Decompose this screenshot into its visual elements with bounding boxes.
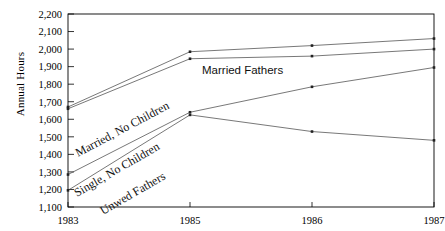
data-point-marker: [189, 111, 192, 114]
data-point-marker: [311, 86, 314, 89]
data-point-marker: [433, 66, 436, 69]
plot-area-frame: [68, 14, 434, 207]
data-point-marker: [189, 50, 192, 53]
y-tick-label: 1,500: [38, 132, 62, 143]
data-point-marker: [67, 189, 70, 192]
y-tick-label: 2,100: [38, 26, 62, 37]
data-point-marker: [311, 44, 314, 47]
y-tick-label: 1,300: [38, 167, 62, 178]
data-point-marker: [189, 114, 192, 117]
y-tick-label: 2,000: [38, 44, 62, 55]
data-point-marker: [433, 48, 436, 51]
data-point-marker: [67, 173, 70, 176]
y-axis-ticks: 2,2002,1002,0001,9001,8001,7001,6001,500…: [38, 9, 74, 213]
y-tick-label: 1,400: [38, 149, 62, 160]
y-tick-label: 1,900: [38, 61, 62, 72]
data-point-marker: [311, 55, 314, 58]
x-tick-label: 1983: [58, 215, 79, 226]
line-chart-svg: 2,2002,1002,0001,9001,8001,7001,6001,500…: [0, 0, 445, 231]
chart-figure: Annual Hours 2,2002,1002,0001,9001,8001,…: [0, 0, 445, 231]
x-tick-label: 1986: [302, 215, 323, 226]
y-tick-label: 1,200: [38, 184, 62, 195]
y-tick-label: 1,700: [38, 97, 62, 108]
x-tick-label: 1985: [180, 215, 201, 226]
y-tick-label: 1,100: [38, 202, 62, 213]
y-axis-title: Annual Hours: [14, 34, 26, 134]
data-point-marker: [433, 37, 436, 40]
data-point-marker: [67, 107, 70, 110]
data-point-marker: [433, 139, 436, 142]
y-tick-label: 1,600: [38, 114, 62, 125]
annotation-married-fathers: Married Fathers: [202, 64, 283, 76]
y-tick-label: 2,200: [38, 9, 62, 20]
data-point-marker: [311, 130, 314, 133]
x-tick-label: 1987: [424, 215, 445, 226]
data-point-marker: [189, 57, 192, 60]
y-tick-label: 1,800: [38, 79, 62, 90]
